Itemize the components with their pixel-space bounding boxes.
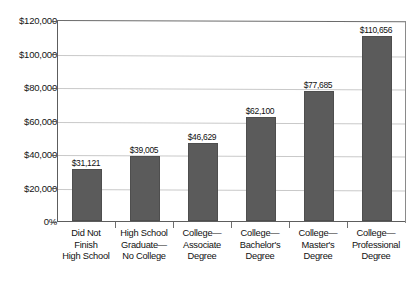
x-axis-category-line: Degree [231,251,289,263]
plot-frame-right [405,21,406,223]
x-axis-category-label: College—Bachelor'sDegree [231,228,289,263]
x-axis-category-line: Bachelor's [231,240,289,252]
y-axis-tick-label: $20,000 [5,183,57,194]
x-axis-category-label: College—Master'sDegree [289,228,347,263]
x-axis-category-line: Finish [57,240,115,252]
bar [304,91,334,221]
bar-value-label: $39,005 [112,145,176,155]
bar [130,156,160,221]
bar [246,117,276,221]
x-axis-category-line: Degree [347,251,405,263]
x-axis-category-line: Associate [173,240,231,252]
bar-value-label: $77,685 [286,80,350,90]
x-axis-category-line: College— [347,228,405,240]
x-axis-category-line: College— [231,228,289,240]
bar [188,143,218,221]
bar [362,36,392,221]
x-axis-category-line: High School [57,251,115,263]
bar [72,169,102,221]
x-axis-category-line: High School [115,228,173,240]
y-axis-tick-label: $80,000 [5,82,57,93]
x-axis-category-line: Professional [347,240,405,252]
plot-area [57,21,405,222]
bar-value-label: $62,100 [228,106,292,116]
bar-value-label: $46,629 [170,132,234,142]
x-axis-category-label: Did NotFinishHigh School [57,228,115,263]
bar-value-label: $31,121 [54,158,118,168]
x-axis-category-line: No College [115,251,173,263]
x-axis-category-line: College— [289,228,347,240]
y-axis-tick-label: 0% [5,216,57,227]
x-axis-category-line: Degree [289,251,347,263]
x-axis-category-label: College—AssociateDegree [173,228,231,263]
x-axis-category-label: High SchoolGraduate—No College [115,228,173,263]
x-axis-category-line: College— [173,228,231,240]
y-axis-tick-label: $120,000 [5,15,57,26]
y-axis-tick-label: $60,000 [5,116,57,127]
y-axis-tick-label: $100,000 [5,49,57,60]
x-axis-category-label: College—ProfessionalDegree [347,228,405,263]
x-axis-category-line: Degree [173,251,231,263]
x-axis-category-line: Did Not [57,228,115,240]
bar-chart: 0%$20,000$40,000$60,000$80,000$100,000$1… [0,0,419,284]
x-axis-category-line: Graduate— [115,240,173,252]
bar-value-label: $110,656 [344,25,408,35]
y-axis-tick-label: $40,000 [5,149,57,160]
x-axis-category-line: Master's [289,240,347,252]
